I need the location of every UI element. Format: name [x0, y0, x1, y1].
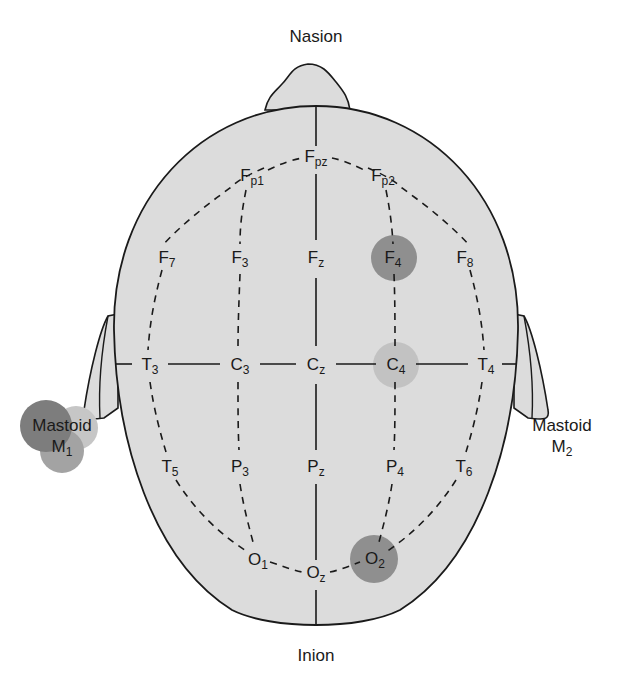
electrode-t4: T4 — [477, 356, 494, 376]
inion-label: Inion — [298, 647, 335, 664]
mastoid-right-word: Mastoid — [532, 415, 592, 436]
mastoid-left-code: M1 — [32, 437, 92, 461]
electrode-c3: C3 — [231, 356, 250, 376]
nose-shape — [265, 64, 350, 110]
electrode-pz: Pz — [307, 458, 324, 478]
electrode-f7: F7 — [158, 249, 175, 269]
mastoid-right-label: Mastoid M2 — [532, 415, 592, 460]
electrode-p3: P3 — [231, 458, 249, 478]
electrode-o1: O1 — [248, 551, 268, 571]
mastoid-left-label: Mastoid M1 — [32, 415, 92, 460]
mastoid-right-code: M2 — [532, 437, 592, 461]
electrode-f4: F4 — [384, 249, 401, 269]
electrode-t5: T5 — [161, 458, 178, 478]
electrode-fz: Fz — [308, 249, 324, 269]
mastoid-left-word: Mastoid — [32, 415, 92, 436]
electrode-f3: F3 — [231, 249, 248, 269]
electrode-o2: O2 — [365, 550, 385, 570]
electrode-t6: T6 — [455, 458, 472, 478]
electrode-t3: T3 — [141, 356, 158, 376]
electrode-oz: Oz — [306, 564, 325, 584]
electrode-c4: C4 — [387, 356, 406, 376]
electrode-cz: Cz — [307, 356, 325, 376]
nasion-label: Nasion — [290, 28, 343, 45]
electrode-fp1: Fp1 — [240, 167, 264, 187]
electrode-fpz: Fpz — [304, 148, 327, 168]
electrode-p4: P4 — [386, 458, 404, 478]
electrode-f8: F8 — [456, 249, 473, 269]
electrode-fp2: Fp2 — [371, 167, 395, 187]
